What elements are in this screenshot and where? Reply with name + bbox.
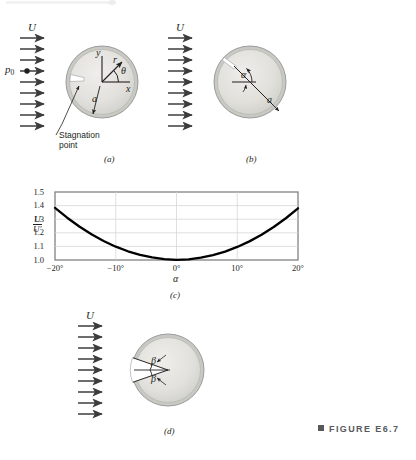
panel-a-freestream-label: U bbox=[28, 22, 36, 33]
chart-x-axis-label: α bbox=[173, 274, 178, 284]
panel-b-alpha-label: α bbox=[241, 70, 246, 80]
chart-x-tick-label: −10° bbox=[107, 264, 124, 273]
chart-x-tick-label: 20° bbox=[292, 264, 304, 273]
panel-b-freestream-arrows bbox=[168, 38, 192, 126]
panel-a-pressure-subscript: 0 bbox=[11, 68, 15, 77]
panel-b-radius-label: a bbox=[267, 95, 272, 105]
chart-x-tick-label: −20° bbox=[47, 264, 64, 273]
panel-b-freestream-label: U bbox=[176, 22, 184, 33]
panel-a-freestream-arrows bbox=[20, 38, 44, 126]
panel-b-graphic bbox=[168, 38, 286, 126]
panel-d-sublabel: (d) bbox=[164, 427, 175, 436]
figure-caption: FIGURE E6.7 bbox=[318, 425, 399, 434]
panel-b-sublabel: (b) bbox=[246, 155, 257, 164]
panel-a-radius-vector-label: r bbox=[113, 55, 117, 65]
panel-d-freestream-label: U bbox=[86, 310, 94, 321]
panel-d-freestream-arrows bbox=[78, 326, 102, 414]
panel-a-pressure-label: p0 bbox=[5, 64, 14, 77]
chart-x-tick-label: 10° bbox=[231, 264, 243, 273]
panel-a-stagnation-label-line2: point bbox=[59, 141, 77, 151]
panel-a-y-axis-label: y bbox=[96, 48, 100, 58]
panel-d-beta-label-upper: β bbox=[151, 356, 156, 366]
chart-x-tick-label: 0° bbox=[173, 264, 181, 273]
panel-d-graphic bbox=[78, 326, 204, 414]
panel-a-radius-label: a bbox=[92, 94, 97, 104]
panel-a-x-axis-label: x bbox=[126, 84, 130, 94]
panel-a-sublabel: (a) bbox=[104, 155, 115, 164]
panel-c-sublabel: (c) bbox=[170, 291, 180, 300]
panel-a-pressure-point bbox=[24, 68, 29, 73]
caption-square-icon bbox=[318, 425, 324, 431]
panel-c-chart-graphic bbox=[55, 192, 298, 260]
panel-d-beta-label-lower: β bbox=[151, 374, 156, 384]
figure-caption-text: FIGURE E6.7 bbox=[329, 424, 399, 434]
panel-a-theta-label: θ bbox=[121, 66, 126, 76]
figure-e6-7: U p0 y x r θ a Stagnation point (a) U α … bbox=[0, 0, 416, 460]
figure-vector-layer bbox=[0, 0, 416, 460]
panel-a-graphic bbox=[20, 38, 138, 135]
